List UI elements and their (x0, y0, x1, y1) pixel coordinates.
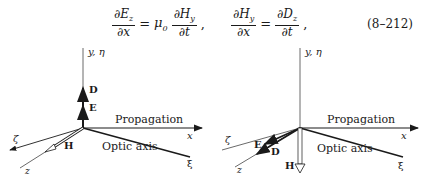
vector-H-label: H (285, 160, 294, 171)
numerator: ∂H (174, 7, 191, 21)
subscript: z (129, 14, 133, 23)
z-axis-label: z (237, 165, 242, 175)
z-axis-label: z (25, 166, 30, 176)
y-eta-label: y, η (305, 46, 322, 57)
numerator: ∂H (233, 7, 250, 21)
denominator: ∂t (280, 26, 295, 39)
diagram-right: y, η Propagation x Optic axis ξ ζ z E D … (210, 40, 423, 183)
x-axis-label: x (401, 130, 407, 141)
mu-zero: μ0 (154, 15, 168, 33)
subscript: z (293, 14, 297, 23)
equation-number: (8–212) (367, 17, 413, 31)
subscript: y (250, 14, 255, 23)
xi-label: ξ (398, 160, 404, 171)
diagram-left: y, η D E Propagation x Optic axis ξ ζ z … (0, 40, 210, 183)
equals-sign: = (139, 16, 150, 31)
equation-block: ∂Ez ∂x = μ0 ∂Hy ∂t , ∂Hy ∂x = ∂Dz ∂t , (… (0, 6, 423, 42)
y-eta-label: y, η (88, 46, 105, 57)
subscript: y (190, 14, 195, 23)
vector-H-label: H (64, 140, 73, 151)
denominator: ∂x (235, 26, 252, 39)
xi-label: ξ (187, 158, 193, 169)
propagation-label: Propagation (115, 113, 183, 126)
maxwell-equations: ∂Ez ∂x = μ0 ∂Hy ∂t , ∂Hy ∂x = ∂Dz ∂t , (112, 8, 307, 39)
vector-D-label: D (271, 146, 280, 157)
zeta-label: ζ (13, 133, 18, 144)
comma: , (303, 16, 307, 31)
comma: , (201, 16, 205, 31)
fraction-dEz-dx: ∂Ez ∂x (112, 8, 135, 39)
optic-axis-label: Optic axis (317, 142, 373, 155)
subscript: 0 (163, 23, 168, 32)
optic-axis-label: Optic axis (102, 140, 158, 153)
fraction-dDz-dt: ∂Dz ∂t (275, 8, 299, 39)
propagation-label: Propagation (327, 113, 395, 126)
x-axis-label: x (187, 130, 193, 141)
vector-E-label: E (254, 139, 262, 150)
equals-sign: = (260, 16, 271, 31)
numerator: ∂D (277, 7, 293, 21)
axes-right (210, 40, 423, 183)
axes-left (0, 40, 210, 183)
vector-E-label: E (89, 102, 97, 113)
fraction-dHy-dt: ∂Hy ∂t (172, 8, 197, 39)
numerator: ∂E (114, 7, 129, 21)
zeta-label: ζ (225, 134, 230, 145)
vector-D-label: D (89, 84, 98, 95)
fraction-dHy-dx: ∂Hy ∂x (231, 8, 256, 39)
denominator: ∂t (177, 26, 192, 39)
denominator: ∂x (115, 26, 132, 39)
mu: μ (154, 15, 162, 30)
